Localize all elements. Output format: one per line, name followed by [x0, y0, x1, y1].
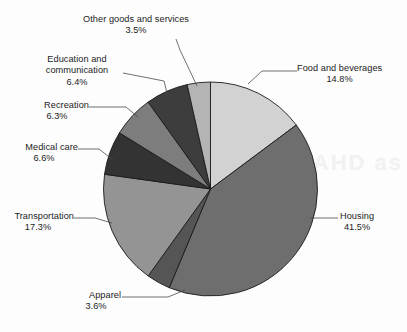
pie-chart-figure: AHD as Food and beverages 14.8% Housing [0, 0, 407, 332]
pie-label-recreation: Recreation 6.3% [25, 100, 89, 123]
pie-value-education-and-communication: 6.4% [31, 77, 123, 88]
leader-line-recreation [89, 107, 138, 117]
pie-value-transportation: 17.3% [2, 222, 74, 233]
pie-slice-group [103, 82, 317, 296]
leader-line-food-and-beverages [248, 71, 297, 84]
pie-label-food-and-beverages: Food and beverages 14.8% [297, 63, 382, 86]
pie-chart-canvas [0, 0, 407, 332]
pie-label-housing: Housing 41.5% [340, 211, 374, 234]
pie-label-education-and-communication: Education and communication 6.4% [31, 54, 123, 88]
pie-label-text-recreation: Recreation [44, 100, 89, 110]
pie-value-apparel: 3.6% [71, 301, 121, 312]
pie-label-text-medical-care: Medical care [25, 142, 78, 152]
pie-label-text-food-and-beverages: Food and beverages [297, 63, 382, 73]
pie-value-recreation: 6.3% [25, 111, 89, 122]
pie-value-medical-care: 6.6% [10, 153, 78, 164]
pie-label-text-apparel: Apparel [89, 290, 121, 300]
leader-line-education-and-communication [123, 73, 167, 93]
pie-label-text-education-and-communication-line1: Education and [47, 54, 106, 64]
pie-label-other-goods-and-services: Other goods and services 3.5% [62, 14, 210, 37]
pie-label-text-other-goods-and-services: Other goods and services [83, 14, 189, 24]
leader-line-transportation [74, 218, 112, 223]
pie-value-housing: 41.5% [340, 222, 374, 233]
pie-label-medical-care: Medical care 6.6% [10, 142, 78, 165]
pie-value-food-and-beverages: 14.8% [297, 74, 382, 85]
leader-line-other-goods-and-services [176, 39, 197, 86]
pie-label-text-education-and-communication-line2: communication [31, 65, 123, 76]
pie-label-text-transportation: Transportation [14, 211, 74, 221]
leader-line-apparel [122, 290, 185, 297]
pie-label-apparel: Apparel 3.6% [71, 290, 121, 313]
pie-value-other-goods-and-services: 3.5% [62, 25, 210, 36]
pie-label-transportation: Transportation 17.3% [2, 211, 74, 234]
pie-label-text-housing: Housing [340, 211, 374, 221]
